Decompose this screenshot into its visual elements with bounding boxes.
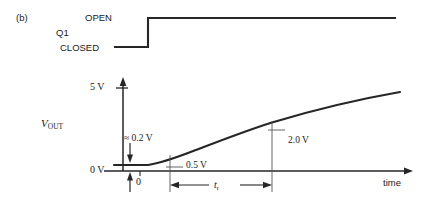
figure-panel-b: (b) OPEN Q1 CLOSED 5 V 0 V VOUT ≈ 0.2 V …	[0, 0, 431, 210]
offset-voltage-arrowhead-up	[127, 172, 133, 181]
rise-time-arrowhead-left	[170, 182, 179, 189]
offset-voltage-arrowhead-down	[127, 155, 133, 164]
vout-response-curve	[114, 92, 400, 165]
voltage-axis-arrowhead	[120, 77, 127, 86]
switch-step-waveform	[114, 18, 396, 47]
rise-time-arrowhead-right	[263, 182, 272, 189]
time-axis-arrowhead	[404, 168, 413, 175]
figure-vector-layer	[0, 0, 431, 210]
